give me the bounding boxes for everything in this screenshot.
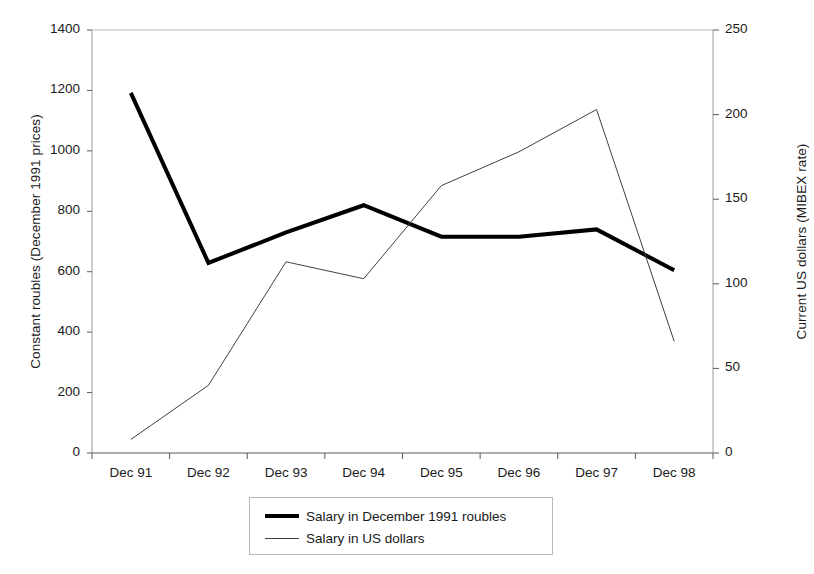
x-tick-label: Dec 96 [479, 465, 559, 480]
x-tick-label: Dec 92 [168, 465, 248, 480]
x-tick-label: Dec 95 [401, 465, 481, 480]
x-tick-label: Dec 97 [557, 465, 637, 480]
legend-label-dollars: Salary in US dollars [302, 531, 425, 546]
legend-swatch-thin-line-icon [262, 538, 302, 539]
x-tick-label: Dec 94 [324, 465, 404, 480]
x-tick-label: Dec 91 [91, 465, 171, 480]
left-tick-label: 1000 [20, 142, 80, 157]
right-tick-label: 50 [725, 359, 785, 374]
legend-item-dollars: Salary in US dollars [262, 527, 542, 549]
chart-legend: Salary in December 1991 roubles Salary i… [249, 497, 553, 555]
right-tick-label: 100 [725, 275, 785, 290]
left-tick-label: 0 [20, 444, 80, 459]
left-tick-label: 800 [20, 202, 80, 217]
right-tick-label: 0 [725, 444, 785, 459]
data-series-layer [131, 93, 674, 440]
left-axis-ticks [87, 30, 92, 453]
right-tick-label: 200 [725, 106, 785, 121]
series-line-dollars [131, 110, 674, 440]
left-tick-label: 600 [20, 263, 80, 278]
right-tick-label: 150 [725, 190, 785, 205]
left-tick-label: 1200 [20, 81, 80, 96]
left-tick-label: 1400 [20, 21, 80, 36]
series-line-roubles [131, 93, 674, 270]
right-tick-label: 250 [725, 21, 785, 36]
left-tick-label: 200 [20, 384, 80, 399]
x-tick-label: Dec 98 [634, 465, 714, 480]
legend-label-roubles: Salary in December 1991 roubles [302, 509, 506, 524]
x-tick-label: Dec 93 [246, 465, 326, 480]
legend-swatch-thick-line-icon [262, 514, 302, 518]
left-tick-label: 400 [20, 323, 80, 338]
legend-item-roubles: Salary in December 1991 roubles [262, 505, 542, 527]
x-axis-ticks [92, 453, 713, 459]
right-axis-ticks [713, 30, 719, 453]
